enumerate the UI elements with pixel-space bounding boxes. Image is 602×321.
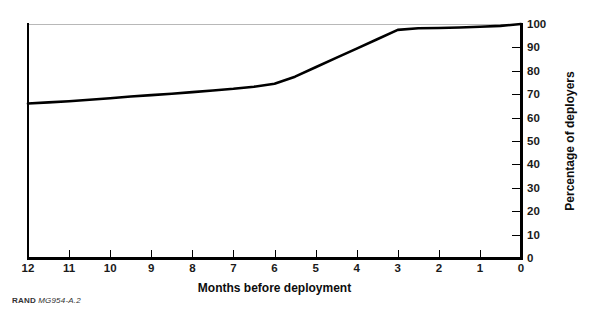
x-tick-mark [357,250,358,257]
y-tick-mark [512,47,520,48]
x-tick-label: 8 [172,262,212,274]
x-tick-mark [480,250,481,257]
x-tick-mark [439,250,440,257]
y-tick-mark [512,235,520,236]
x-tick-mark [398,250,399,257]
y-tick-mark [512,141,520,142]
x-tick-mark [192,250,193,257]
x-tick-label: 3 [378,262,418,274]
y-tick-label: 40 [527,159,557,169]
x-tick-label: 4 [337,262,377,274]
x-tick-label: 5 [296,262,336,274]
y-tick-label: 10 [527,230,557,240]
x-tick-label: 6 [255,262,295,274]
y-tick-mark [512,118,520,119]
credit-brand: RAND [12,296,36,305]
y-axis-label-wrapper: Percentage of deployers [560,24,580,258]
figure-container: 1211109876543210 0102030405060708090100 … [0,0,602,321]
y-tick-label: 30 [527,183,557,193]
y-tick-label: 0 [527,253,557,263]
x-axis-spine [27,257,523,260]
x-tick-label: 9 [131,262,171,274]
y-tick-label: 100 [527,19,557,29]
y-tick-label: 20 [527,206,557,216]
x-tick-label: 0 [501,262,541,274]
x-axis-label: Months before deployment [28,281,521,295]
figure-credit: RAND MG954-A.2 [12,296,81,305]
x-tick-label: 2 [419,262,459,274]
x-tick-label: 7 [213,262,253,274]
x-tick-label: 12 [8,262,48,274]
y-tick-label: 70 [527,89,557,99]
x-tick-mark [28,250,29,257]
y-axis-right-spine [520,23,523,260]
x-tick-mark [69,250,70,257]
y-tick-label: 60 [527,113,557,123]
x-tick-label: 11 [49,262,89,274]
y-tick-mark [512,211,520,212]
y-tick-mark [512,71,520,72]
x-tick-mark [521,250,522,257]
x-tick-mark [233,250,234,257]
y-tick-label: 50 [527,136,557,146]
y-tick-mark [512,164,520,165]
y-tick-mark [512,94,520,95]
x-tick-mark [316,250,317,257]
y-tick-label: 80 [527,66,557,76]
x-tick-label: 1 [460,262,500,274]
y-tick-label: 90 [527,42,557,52]
x-tick-mark [275,250,276,257]
y-tick-mark [512,188,520,189]
credit-id: MG954-A.2 [38,296,81,305]
x-tick-label: 10 [90,262,130,274]
y-axis-label: Percentage of deployers [563,71,577,210]
y-axis-left-spine [27,23,29,260]
x-tick-mark [110,250,111,257]
x-tick-mark [151,250,152,257]
plot-area [28,24,521,258]
